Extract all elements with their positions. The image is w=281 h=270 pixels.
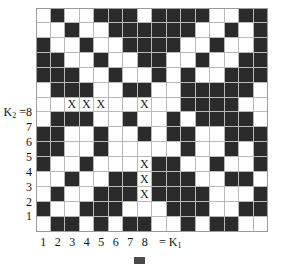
grid-cell <box>239 202 254 217</box>
grid-cell <box>196 23 211 38</box>
grid-cell <box>51 53 66 68</box>
grid-cell <box>225 38 240 53</box>
lattice-grid: XXXXXXX <box>36 8 268 232</box>
grid-cell <box>123 217 138 232</box>
grid-cell <box>123 68 138 83</box>
grid-cell <box>36 23 51 38</box>
grid-cell <box>94 217 109 232</box>
grid-cell <box>109 83 124 98</box>
y-axis-tick: K2 =8 <box>0 105 34 120</box>
grid-cell <box>65 68 80 83</box>
grid-cell <box>167 53 182 68</box>
x-axis-tick: 7 <box>123 233 138 251</box>
grid-cell <box>167 157 182 172</box>
grid-cell <box>80 38 95 53</box>
grid-cell <box>80 23 95 38</box>
y-axis-labels: K2 =87654321 <box>0 105 34 224</box>
grid-cell <box>210 142 225 157</box>
grid-cell <box>80 127 95 142</box>
grid-cell <box>94 127 109 142</box>
x-axis-tick: 6 <box>109 233 124 251</box>
y-axis-tick: 6 <box>0 135 34 150</box>
grid-cell <box>36 53 51 68</box>
cell-mark-x: X <box>65 98 79 110</box>
grid-cell <box>65 202 80 217</box>
grid-cell <box>239 38 254 53</box>
grid-cell <box>51 217 66 232</box>
grid-cell <box>152 187 167 202</box>
grid-cell <box>210 112 225 127</box>
grid-cell <box>138 112 153 127</box>
cell-mark-x: X <box>138 158 152 170</box>
grid-cell <box>167 142 182 157</box>
y-axis-tick: 7 <box>0 120 34 135</box>
grid-cell <box>225 172 240 187</box>
grid-cell <box>138 127 153 142</box>
grid-cell <box>123 142 138 157</box>
grid-cell <box>80 83 95 98</box>
grid-cell <box>109 157 124 172</box>
x-axis-tick: 5 <box>94 233 109 251</box>
grid-cell <box>109 23 124 38</box>
grid-cell <box>123 98 138 113</box>
grid-cell <box>181 112 196 127</box>
grid-cell <box>80 8 95 23</box>
grid-cell: X <box>80 98 95 113</box>
grid-cell <box>36 83 51 98</box>
cell-mark-x: X <box>138 98 152 110</box>
grid-cell <box>94 157 109 172</box>
y-axis-tick: 1 <box>0 209 34 224</box>
grid-cell <box>167 38 182 53</box>
grid-cell <box>109 38 124 53</box>
grid-cell <box>210 217 225 232</box>
grid-cell <box>94 202 109 217</box>
grid-cell <box>80 217 95 232</box>
grid-cell <box>210 202 225 217</box>
grid-cell <box>36 68 51 83</box>
x-axis-name: = K1 <box>159 233 181 253</box>
cell-mark-x: X <box>138 173 152 185</box>
grid-cell <box>94 8 109 23</box>
grid-cell <box>80 53 95 68</box>
grid-cell <box>254 202 269 217</box>
x-axis-tick: 4 <box>80 233 95 251</box>
grid-cell <box>109 142 124 157</box>
x-axis-name-subscript: 1 <box>177 241 181 250</box>
grid-cell <box>196 68 211 83</box>
grid-cell <box>196 202 211 217</box>
grid-cell <box>152 53 167 68</box>
grid-cell <box>210 8 225 23</box>
grid-cell <box>167 217 182 232</box>
grid-cell <box>94 142 109 157</box>
grid-cell: X <box>138 157 153 172</box>
grid-cell <box>254 83 269 98</box>
cell-mark-x: X <box>80 98 94 110</box>
grid-cell <box>152 83 167 98</box>
grid-cell <box>51 8 66 23</box>
grid-cell <box>51 142 66 157</box>
grid-cell <box>254 68 269 83</box>
grid-cell <box>181 83 196 98</box>
grid-cell <box>51 127 66 142</box>
grid-cell <box>138 8 153 23</box>
grid-cell <box>65 38 80 53</box>
grid-cell <box>109 68 124 83</box>
grid-cell <box>123 172 138 187</box>
grid-cell <box>210 98 225 113</box>
grid-cell <box>225 157 240 172</box>
grid-cell <box>210 53 225 68</box>
grid-cell <box>196 142 211 157</box>
grid-cell <box>239 157 254 172</box>
grid-cell <box>196 172 211 187</box>
grid-cell <box>109 172 124 187</box>
grid-cell <box>51 23 66 38</box>
grid-cell <box>196 217 211 232</box>
grid-cell <box>51 187 66 202</box>
grid-cell <box>181 38 196 53</box>
grid-cell <box>152 68 167 83</box>
y-axis-tick: 2 <box>0 195 34 210</box>
grid-cell <box>152 157 167 172</box>
grid-cell <box>94 38 109 53</box>
grid-cell <box>152 98 167 113</box>
grid-cell <box>109 53 124 68</box>
